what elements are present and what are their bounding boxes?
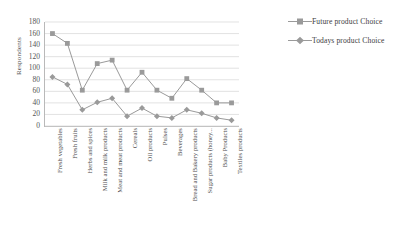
x-tick-label-text: Pulses [161, 128, 168, 145]
x-tick-label: Bread and Bakery products [189, 128, 196, 201]
y-tick-180: 180 [29, 18, 40, 26]
y-tick-100: 100 [29, 64, 40, 72]
series-0-point-5 [125, 88, 130, 93]
chart-legend: Future product Choice Todays product Cho… [288, 14, 414, 52]
series-0-point-1 [65, 41, 70, 46]
x-tick-label-text: Fresh vegetables [56, 128, 63, 173]
series-1-point-11 [214, 115, 220, 121]
series-0-point-7 [155, 88, 160, 93]
chart-root: Respondents 180160140120100806040200 Fre… [0, 0, 416, 245]
y-tick-160: 160 [29, 30, 40, 38]
series-0-point-9 [184, 76, 189, 81]
x-tick-label-text: Meat and meat products [116, 128, 123, 193]
series-1-point-2 [79, 107, 85, 113]
series-0-point-3 [95, 61, 100, 66]
x-tick-label-text: Herbs and spices [86, 128, 93, 173]
series-0-point-10 [199, 88, 204, 93]
series-0-point-11 [214, 100, 219, 105]
y-tick-80: 80 [33, 76, 41, 84]
x-tick-label-text: Textiles products [236, 128, 243, 174]
x-tick-label: Fresh vegetables [54, 128, 61, 173]
series-1-point-7 [154, 113, 160, 119]
series-1-point-6 [139, 105, 145, 111]
x-tick-label: Fresh fruits [69, 128, 76, 159]
series-0-point-4 [110, 58, 115, 63]
series-0-point-0 [50, 31, 55, 36]
x-tick-label: Milk and milk products [99, 128, 106, 191]
y-tick-120: 120 [29, 53, 40, 61]
legend-item-todays[interactable]: Todays product Choice [288, 33, 414, 48]
y-tick-20: 20 [33, 110, 41, 118]
legend-square-marker-icon [288, 17, 312, 26]
legend-label-todays: Todays product Choice [312, 36, 384, 45]
series-1-point-8 [169, 115, 175, 121]
series-0-point-8 [169, 96, 174, 101]
x-tick-label-text: Cereals [131, 128, 138, 148]
y-tick-60: 60 [33, 87, 41, 95]
x-axis-tick-labels: Fresh vegetablesFresh fruitsHerbs and sp… [44, 128, 238, 240]
plot-svg [45, 22, 239, 126]
series-0-point-6 [140, 70, 145, 75]
x-tick-label: Herbs and spices [84, 128, 91, 173]
x-tick-label: Sugar products (honey... [204, 128, 211, 193]
y-axis-tick-labels: 180160140120100806040200 [18, 18, 40, 130]
x-tick-label-text: Fresh fruits [71, 128, 78, 159]
x-tick-label: Meat and meat products [114, 128, 121, 193]
series-1-point-12 [229, 117, 235, 123]
x-tick-label-text: Beverages [176, 128, 183, 156]
series-1-point-9 [184, 107, 190, 113]
x-tick-label: Beverages [174, 128, 181, 156]
series-1-point-10 [199, 110, 205, 116]
series-1-point-1 [64, 81, 70, 87]
y-tick-0: 0 [36, 122, 40, 130]
series-1-point-0 [49, 74, 55, 80]
legend-item-future[interactable]: Future product Choice [288, 14, 414, 29]
legend-label-future: Future product Choice [312, 17, 382, 26]
x-tick-label: Baby Products [219, 128, 226, 167]
y-tick-140: 140 [29, 41, 40, 49]
x-tick-label-text: Milk and milk products [101, 128, 108, 191]
x-tick-label: Textiles products [234, 128, 241, 174]
series-line-1 [52, 77, 231, 120]
series-0-point-2 [80, 88, 85, 93]
x-tick-label-text: Sugar products (honey... [206, 128, 213, 193]
series-0-point-12 [229, 100, 234, 105]
x-tick-label: Oil products [144, 128, 151, 161]
plot-area [44, 22, 239, 127]
x-tick-label-text: Oil products [146, 128, 153, 161]
x-tick-label: Cereals [129, 128, 136, 148]
x-tick-label-text: Baby Products [221, 128, 228, 167]
series-1-point-3 [94, 99, 100, 105]
legend-diamond-marker-icon [288, 36, 312, 45]
y-tick-40: 40 [33, 99, 41, 107]
x-tick-label-text: Bread and Bakery products [191, 128, 198, 201]
x-tick-label: Pulses [159, 128, 166, 145]
